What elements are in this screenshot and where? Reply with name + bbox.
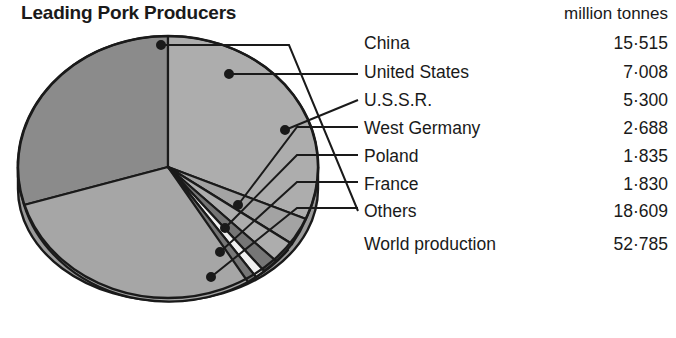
world-production-row: World production 52·785 (364, 234, 668, 260)
world-production-label: World production (364, 234, 496, 255)
legend-label-others: Others (364, 201, 417, 222)
legend-label-france: France (364, 174, 418, 195)
legend-value-china: 15·515 (614, 33, 669, 54)
legend: million tonnes China 15·515 United State… (364, 0, 676, 280)
legend-label-poland: Poland (364, 146, 419, 167)
legend-row-west-germany: West Germany 2·688 (364, 118, 668, 144)
legend-value-west-germany: 2·688 (623, 118, 668, 139)
legend-row-united-states: United States 7·008 (364, 62, 668, 88)
legend-row-others: Others 18·609 (364, 201, 668, 227)
legend-label-united-states: United States (364, 62, 469, 83)
legend-value-others: 18·609 (614, 201, 669, 222)
units-header: million tonnes (564, 4, 668, 24)
legend-value-ussr: 5·300 (623, 90, 668, 111)
legend-value-france: 1·830 (623, 174, 668, 195)
legend-label-china: China (364, 33, 410, 54)
world-production-value: 52·785 (614, 234, 669, 255)
legend-row-france: France 1·830 (364, 174, 668, 200)
legend-label-ussr: U.S.S.R. (364, 90, 432, 111)
legend-row-ussr: U.S.S.R. 5·300 (364, 90, 668, 116)
pie-chart-figure: Leading Pork Producers (0, 0, 676, 338)
legend-row-china: China 15·515 (364, 33, 668, 59)
legend-value-united-states: 7·008 (623, 62, 668, 83)
legend-label-west-germany: West Germany (364, 118, 480, 139)
legend-value-poland: 1·835 (623, 146, 668, 167)
legend-row-poland: Poland 1·835 (364, 146, 668, 172)
